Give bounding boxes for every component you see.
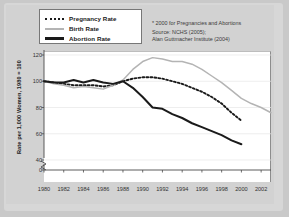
x-tick-label: 2000 <box>231 186 251 192</box>
legend-swatch-pregnancy-icon <box>45 18 64 20</box>
x-tick-label: 1988 <box>113 186 133 192</box>
note-source-line-2: Alan Guttmacher Institute (2004) <box>152 36 270 43</box>
x-axis-tick-labels: 1980198219841986198819901992199419961998… <box>0 186 289 196</box>
series-line-abortion-rate <box>44 80 241 144</box>
legend-swatch-birth-icon <box>45 28 64 30</box>
legend-item-birth-rate: Birth Rate <box>45 24 136 33</box>
y-tick-label: 0 <box>26 167 42 173</box>
y-tick-label: 120 <box>26 52 42 58</box>
x-tick-label: 1994 <box>172 186 192 192</box>
x-tick-label: 1998 <box>212 186 232 192</box>
x-tick-label: 1992 <box>152 186 172 192</box>
x-tick-label: 1984 <box>73 186 93 192</box>
y-axis-tick-labels: 0406080100120 <box>22 0 42 217</box>
chart-notes: * 2000 for Pregnancies and Abortions Sou… <box>152 20 270 44</box>
legend-swatch-abortion-icon <box>45 37 64 40</box>
y-tick-label: 60 <box>26 131 42 137</box>
y-tick-label: 100 <box>26 78 42 84</box>
legend-item-abortion-rate: Abortion Rate <box>45 34 136 43</box>
figure-container: Pregnancy Rate Birth Rate Abortion Rate … <box>0 0 289 217</box>
x-tick-label: 1982 <box>54 186 74 192</box>
x-tick-label: 1996 <box>192 186 212 192</box>
x-tick-label: 2002 <box>251 186 271 192</box>
legend-item-pregnancy-rate: Pregnancy Rate <box>45 14 136 23</box>
x-tick-label: 1986 <box>93 186 113 192</box>
legend-label-birth: Birth Rate <box>69 24 99 33</box>
x-tick-label: 1980 <box>34 186 54 192</box>
series-line-pregnancy-rate <box>44 77 241 120</box>
legend-label-pregnancy: Pregnancy Rate <box>69 14 116 23</box>
chart-legend: Pregnancy Rate Birth Rate Abortion Rate <box>39 9 142 44</box>
legend-label-abortion: Abortion Rate <box>69 34 111 43</box>
y-tick-label: 40 <box>26 157 42 163</box>
y-tick-label: 80 <box>26 105 42 111</box>
note-footnote: * 2000 for Pregnancies and Abortions <box>152 20 270 27</box>
x-tick-label: 1990 <box>133 186 153 192</box>
note-source-line-1: Source: NCHS (2005); <box>152 29 270 36</box>
